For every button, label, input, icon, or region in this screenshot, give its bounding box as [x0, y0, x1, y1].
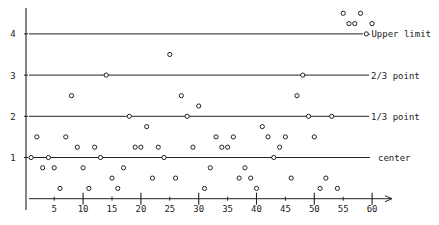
- data-point: [191, 145, 195, 149]
- data-point: [226, 145, 230, 149]
- reference-lines: center1/3 point2/3 point-Upper limit: [29, 29, 431, 163]
- data-point: [341, 11, 345, 15]
- data-point: [214, 135, 218, 139]
- data-point: [139, 145, 143, 149]
- x-axis: 51015202530354045505560: [29, 193, 392, 214]
- x-tick-label: 60: [367, 204, 378, 214]
- one-third-point-label: 1/3 point: [371, 112, 420, 122]
- two-thirds-point-label: 2/3 point: [371, 71, 420, 81]
- data-point: [358, 11, 362, 15]
- data-point: [283, 135, 287, 139]
- data-point: [185, 114, 189, 118]
- data-point: [98, 155, 102, 159]
- data-point: [318, 186, 322, 190]
- data-point: [272, 155, 276, 159]
- x-tick-label: 5: [51, 204, 56, 214]
- data-point: [75, 145, 79, 149]
- data-point: [110, 176, 114, 180]
- x-tick-label: 50: [309, 204, 320, 214]
- data-point: [87, 186, 91, 190]
- data-point: [324, 176, 328, 180]
- data-point: [64, 135, 68, 139]
- data-point: [35, 135, 39, 139]
- data-point: [254, 186, 258, 190]
- data-point: [162, 155, 166, 159]
- data-point: [330, 114, 334, 118]
- data-point: [306, 114, 310, 118]
- data-point: [81, 166, 85, 170]
- data-point: [133, 145, 137, 149]
- y-tick-label: 2: [10, 112, 15, 122]
- x-tick-label: 15: [107, 204, 118, 214]
- data-point: [52, 166, 56, 170]
- y-axis: 1234: [10, 8, 28, 210]
- center-label: center: [378, 153, 411, 163]
- x-tick-label: 55: [338, 204, 349, 214]
- data-point: [104, 73, 108, 77]
- x-tick-label: 35: [222, 204, 233, 214]
- data-point: [278, 145, 282, 149]
- data-point: [69, 94, 73, 98]
- x-tick-label: 30: [193, 204, 204, 214]
- x-tick-label: 40: [251, 204, 262, 214]
- data-point: [150, 176, 154, 180]
- data-point: [58, 186, 62, 190]
- data-point: [312, 135, 316, 139]
- data-point: [243, 166, 247, 170]
- data-point: [46, 155, 50, 159]
- data-point: [231, 135, 235, 139]
- y-tick-label: 4: [10, 29, 15, 39]
- data-point: [295, 94, 299, 98]
- data-point: [301, 73, 305, 77]
- y-tick-label: 3: [10, 71, 15, 81]
- data-point: [173, 176, 177, 180]
- data-point: [179, 94, 183, 98]
- data-point: [335, 186, 339, 190]
- data-point: [208, 166, 212, 170]
- data-point: [220, 145, 224, 149]
- data-point: [353, 22, 357, 26]
- data-point: [116, 186, 120, 190]
- control-chart: 1234 51015202530354045505560 center1/3 p…: [0, 0, 439, 225]
- data-points: [29, 11, 374, 190]
- data-point: [121, 166, 125, 170]
- data-point: [289, 176, 293, 180]
- upper-limit-label: -Upper limit: [366, 29, 431, 39]
- data-point: [93, 145, 97, 149]
- data-point: [197, 104, 201, 108]
- data-point: [168, 52, 172, 56]
- data-point: [347, 22, 351, 26]
- data-point: [29, 155, 33, 159]
- x-tick-label: 10: [78, 204, 89, 214]
- x-tick-label: 20: [135, 204, 146, 214]
- data-point: [156, 145, 160, 149]
- data-point: [202, 186, 206, 190]
- data-point: [266, 135, 270, 139]
- data-point: [237, 176, 241, 180]
- data-point: [249, 176, 253, 180]
- data-point: [41, 166, 45, 170]
- x-tick-label: 45: [280, 204, 291, 214]
- y-tick-label: 1: [10, 153, 15, 163]
- data-point: [127, 114, 131, 118]
- data-point: [145, 125, 149, 129]
- data-point: [364, 32, 368, 36]
- data-point: [260, 125, 264, 129]
- data-point: [370, 22, 374, 26]
- x-tick-label: 25: [164, 204, 175, 214]
